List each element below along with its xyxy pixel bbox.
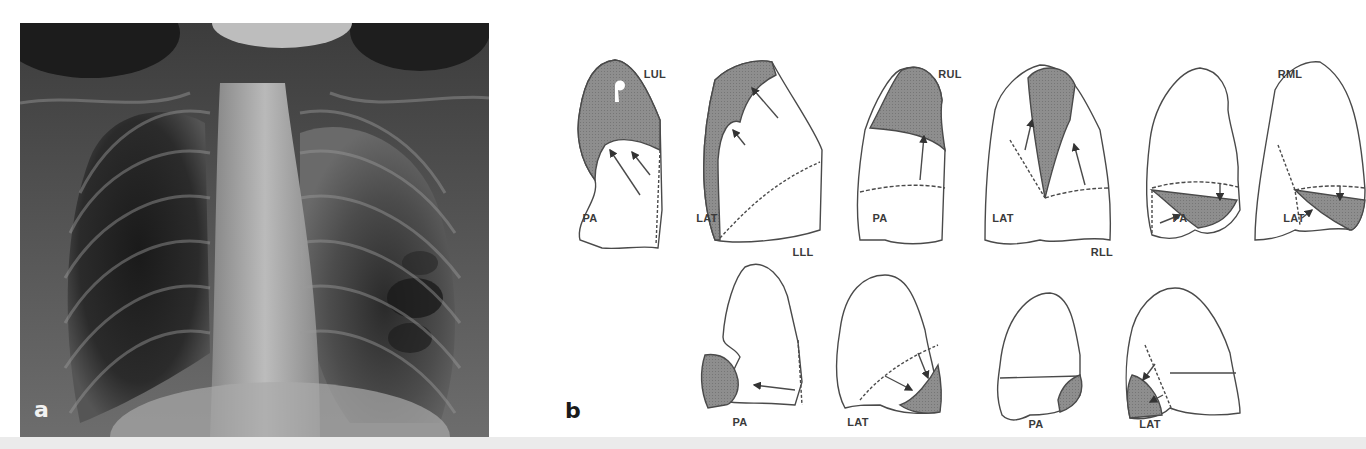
- lobe-title-rml: RML: [1278, 68, 1303, 80]
- rll-lat-diagram: [1126, 288, 1240, 419]
- view-label-rll-pa: PA: [1028, 418, 1043, 430]
- lobe-title-lul: LUL: [644, 68, 666, 80]
- panel-label-b: b: [565, 398, 581, 423]
- lobe-title-rll: RLL: [1091, 246, 1113, 258]
- lll-pa-diagram: [702, 264, 802, 408]
- view-label-lul-lat: LAT: [696, 212, 717, 224]
- rll-pa-diagram: [998, 293, 1082, 420]
- view-label-lll-lat: LAT: [847, 416, 868, 428]
- lobar-collapse-diagram: LUL RUL RML LLL RLL PA LAT PA LAT PA LAT…: [540, 40, 1366, 437]
- lobe-title-rul: RUL: [938, 68, 962, 80]
- view-label-rul-pa: PA: [872, 212, 887, 224]
- lobe-diagrams-svg: [540, 40, 1366, 437]
- view-label-rml-lat: LAT: [1283, 212, 1304, 224]
- lul-lat-diagram: [704, 61, 822, 242]
- panel-label-a: a: [34, 397, 49, 422]
- xray-illustration: [20, 23, 489, 437]
- view-label-lll-pa: PA: [732, 416, 747, 428]
- rul-pa-diagram: [858, 67, 945, 243]
- lll-lat-diagram: [837, 275, 942, 413]
- lobe-title-lll: LLL: [792, 246, 813, 258]
- rml-lat-diagram: [1255, 62, 1365, 240]
- view-label-lul-pa: PA: [582, 212, 597, 224]
- view-label-rll-lat: LAT: [1139, 418, 1160, 430]
- bottom-strip: [0, 437, 1366, 449]
- view-label-rml-pa: PA: [1172, 212, 1187, 224]
- view-label-rul-lat: LAT: [992, 212, 1013, 224]
- chest-xray-image: [20, 23, 489, 437]
- rml-pa-diagram: [1146, 68, 1240, 238]
